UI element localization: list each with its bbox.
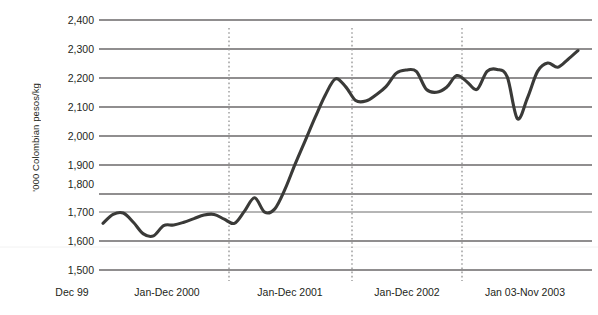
x-axis-tick-labels: Dec 99 Jan-Dec 2000 Jan-Dec 2001 Jan-Dec… [0,286,598,306]
line-chart: '000 Colombian pesos/kg 2,400 2,300 2,20… [0,0,598,315]
x-tick-label: Dec 99 [55,286,88,298]
plot-area [0,0,598,315]
gridlines [0,20,598,270]
x-tick-label: Jan 03-Nov 2003 [485,286,565,298]
x-tick-label: Jan-Dec 2000 [134,286,199,298]
period-dividers [229,28,462,281]
x-tick-label: Jan-Dec 2001 [257,286,322,298]
x-tick-label: Jan-Dec 2002 [374,286,439,298]
